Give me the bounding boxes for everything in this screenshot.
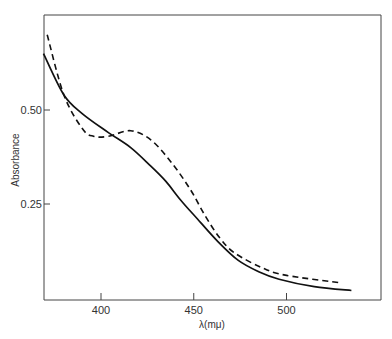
- y-tick-label: 0.50: [21, 104, 42, 116]
- y-tick-label: 0.25: [21, 198, 42, 210]
- x-tick-label: 500: [277, 304, 295, 316]
- x-axis-label: λ(mμ): [199, 319, 225, 330]
- series-group: [44, 35, 352, 291]
- x-ticks: 400450500: [92, 293, 296, 316]
- y-axis-label: Absorbance: [10, 133, 21, 187]
- series-line-solid: [44, 54, 352, 291]
- y-ticks: 0.250.50: [21, 104, 50, 210]
- x-tick-label: 400: [92, 304, 110, 316]
- plot-frame: [44, 15, 381, 300]
- series-line-dashed: [47, 35, 342, 283]
- x-tick-label: 450: [185, 304, 203, 316]
- absorbance-chart: 400450500 0.250.50 λ(mμ) Absorbance: [0, 0, 392, 339]
